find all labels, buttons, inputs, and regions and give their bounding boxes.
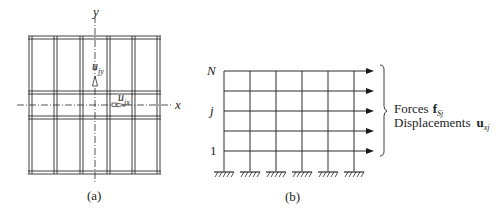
level-label-top: N: [206, 63, 217, 78]
caption-b: (b): [285, 189, 300, 204]
force-arrows: [366, 68, 374, 154]
arrow-icon: [366, 128, 374, 134]
displacement-arrow-jy: [93, 76, 98, 86]
arrow-icon: [366, 68, 374, 74]
support-icon: [292, 172, 312, 177]
arrow-icon: [366, 88, 374, 94]
level-label-middle: j: [208, 103, 214, 118]
displacements-annotation: Displacementsuxj: [394, 115, 490, 132]
caption-a: (a): [87, 188, 101, 203]
panel-a-plan-view: y x ujy ujx (a): [17, 4, 181, 203]
u-jy-label: ujy: [92, 59, 104, 76]
frame-beams: [224, 71, 366, 151]
frame-columns: [224, 71, 354, 171]
x-axis-label: x: [174, 97, 181, 112]
support-icon: [266, 172, 286, 177]
arrow-icon: [366, 108, 374, 114]
arrow-icon: [366, 148, 374, 154]
support-icon: [318, 172, 338, 177]
fixed-supports: [214, 172, 364, 177]
support-icon: [240, 172, 260, 177]
curly-brace-icon: [380, 65, 387, 156]
level-label-bottom: 1: [210, 143, 217, 158]
y-axis-label: y: [91, 4, 99, 19]
panel-b-frame-elevation: N j 1 ForcesfSj Displacementsuxj (b): [206, 63, 490, 204]
support-icon: [214, 172, 234, 177]
plan-axes: [17, 16, 172, 184]
support-icon: [344, 172, 364, 177]
